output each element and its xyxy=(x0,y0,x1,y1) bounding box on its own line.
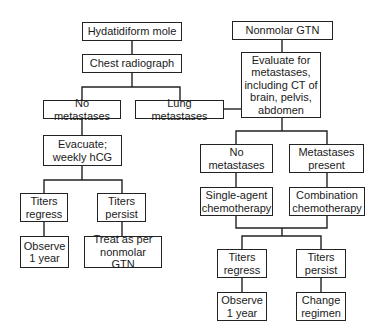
observe-left-box: Observe 1 year xyxy=(20,236,69,268)
titers-regress-right-box: Titers regress xyxy=(217,249,267,278)
no-metastases-left-box: No metastases xyxy=(43,100,121,119)
titers-persist-right-box: Titers persist xyxy=(296,249,346,278)
single-agent-chemo-box: Single-agent chemotherapy xyxy=(200,187,273,216)
hydatidiform-mole-box: Hydatidiform mole xyxy=(82,22,182,41)
chest-radiograph-box: Chest radiograph xyxy=(82,54,182,73)
treat-as-nonmolar-box: Treat as per nonmolar GTN xyxy=(84,236,162,268)
evacuate-box: Evacuate; weekly hCG xyxy=(43,135,122,166)
metastases-present-box: Metastases present xyxy=(289,144,364,173)
observe-right-box: Observe 1 year xyxy=(217,292,267,321)
lung-metastases-box: Lung metastases xyxy=(135,100,224,119)
titers-persist-left-box: Titers persist xyxy=(97,193,146,222)
evaluate-metastases-box: Evaluate for metastases, including CT of… xyxy=(241,52,321,118)
flowchart: Hydatidiform mole Chest radiograph No me… xyxy=(0,0,380,336)
nonmolar-gtn-box: Nonmolar GTN xyxy=(232,21,333,40)
no-metastases-right-box: No metastases xyxy=(200,144,273,173)
change-regimen-box: Change regimen xyxy=(296,292,346,321)
titers-regress-left-box: Titers regress xyxy=(20,193,68,222)
combination-chemo-box: Combination chemotherapy xyxy=(289,187,365,216)
